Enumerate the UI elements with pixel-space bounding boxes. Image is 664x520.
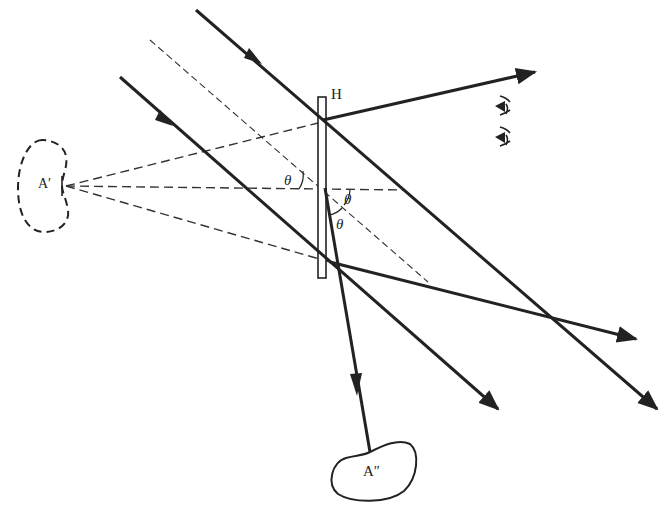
real-image-label: A″ (363, 463, 380, 480)
angle-arc-1 (299, 171, 303, 189)
real-image-beam (325, 188, 370, 452)
dashed-line-lower (66, 186, 330, 262)
eye-icon-lower (495, 127, 510, 146)
incident-beam-lower (120, 77, 498, 409)
ray-diagram (0, 0, 664, 520)
construction-lines (66, 40, 428, 282)
eye-icon-upper (495, 96, 510, 115)
dashed-line-axis (66, 186, 404, 190)
observer-eyes-icon (495, 96, 510, 146)
angle-label-2: θ (344, 191, 351, 208)
angle-label-1: θ (284, 172, 291, 189)
dashed-normal-line (150, 40, 428, 282)
virtual-image-beam (323, 72, 535, 120)
angle-label-3: θ (336, 216, 343, 233)
virtual-image-label: A′ (38, 176, 51, 192)
hologram-label: H (331, 86, 342, 103)
arrowhead-incident-lower (155, 110, 173, 126)
incident-beam-upper (196, 10, 657, 409)
diagram-canvas: H A′ A″ θ θ θ (0, 0, 664, 520)
angle-arc-3 (330, 208, 342, 215)
incident-beams (120, 10, 657, 409)
arrowhead-incident-upper (244, 48, 262, 64)
diffracted-beams (323, 72, 636, 452)
